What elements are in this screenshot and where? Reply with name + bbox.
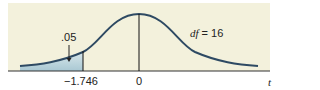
df-value: = 16: [199, 27, 224, 39]
x-axis-label: t: [268, 76, 271, 88]
center-tick-label: 0: [136, 75, 142, 87]
df-label: df = 16: [190, 27, 223, 39]
area-label: .05: [61, 31, 76, 43]
critical-value-tick-label: −1.746: [64, 75, 98, 87]
df-symbol: df: [190, 27, 199, 39]
